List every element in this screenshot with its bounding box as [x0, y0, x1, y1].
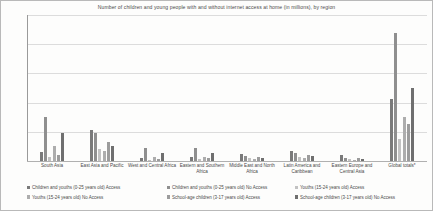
bar[interactable] — [244, 156, 247, 161]
bar[interactable] — [298, 157, 301, 161]
legend-label: Youths (15-24 years old) Access — [300, 185, 364, 190]
x-axis-tick-label: South Asia — [27, 163, 77, 169]
bar-group — [27, 15, 77, 161]
bar[interactable] — [98, 149, 101, 161]
legend-label: School-age children (3-17 years old) Acc… — [172, 195, 260, 200]
legend-row-2: Youths (15-24 years old) No AccessSchool… — [27, 195, 426, 205]
bar[interactable] — [290, 151, 293, 161]
bar[interactable] — [140, 158, 143, 161]
x-axis-tick-label: Latin America and Caribbean — [277, 163, 327, 175]
legend-swatch — [27, 186, 30, 189]
legend-row-1: Children and youths (0-25 years old) Acc… — [27, 185, 426, 195]
bar[interactable] — [411, 88, 414, 161]
bar-group — [377, 15, 427, 161]
chart-title: Number of children and young people with… — [1, 4, 432, 11]
bar[interactable] — [311, 156, 314, 161]
legend-item[interactable]: Children and youths (0-25 years old) Acc… — [27, 185, 120, 190]
bar[interactable] — [407, 124, 410, 161]
bars-container — [27, 15, 427, 161]
bar[interactable] — [240, 154, 243, 161]
legend-swatch — [27, 195, 30, 198]
bar[interactable] — [94, 133, 97, 161]
bar-group — [177, 15, 227, 161]
gridline — [27, 161, 427, 162]
x-axis-tick-label: East Asia and Pacific — [77, 163, 127, 169]
legend-label: Children and youths (0-25 years old) No … — [172, 185, 267, 190]
x-axis-tick-label: Middle East and North Africa — [227, 163, 277, 175]
legend-swatch — [167, 195, 170, 198]
bar[interactable] — [357, 158, 360, 162]
bar[interactable] — [340, 155, 343, 161]
bar-group — [327, 15, 377, 161]
legend-label: Youths (15-24 years old) No Access — [32, 195, 103, 200]
legend-item[interactable]: Children and youths (0-25 years old) No … — [167, 185, 267, 190]
bar[interactable] — [257, 157, 260, 161]
x-axis-tick-label: West and Central Africa — [127, 163, 177, 169]
bar[interactable] — [107, 142, 110, 161]
legend-swatch — [295, 195, 298, 198]
x-axis-tick-label: Eastern and Southern Africa — [177, 163, 227, 175]
chart-figure: Number of children and young people with… — [0, 0, 433, 211]
legend-item[interactable]: Youths (15-24 years old) No Access — [27, 195, 103, 200]
bar[interactable] — [294, 153, 297, 161]
bar[interactable] — [190, 157, 193, 161]
bar[interactable] — [57, 155, 60, 161]
bar[interactable] — [203, 157, 206, 161]
chart-legend: Children and youths (0-25 years old) Acc… — [27, 185, 426, 207]
bar[interactable] — [111, 146, 114, 161]
bar[interactable] — [207, 158, 210, 161]
bar[interactable] — [48, 157, 51, 161]
legend-item[interactable]: Youths (15-24 years old) Access — [295, 185, 364, 190]
bar-group — [77, 15, 127, 161]
bar[interactable] — [44, 117, 47, 161]
bar[interactable] — [144, 148, 147, 161]
bar[interactable] — [344, 158, 347, 161]
legend-swatch — [167, 186, 170, 189]
bar[interactable] — [194, 148, 197, 161]
bar[interactable] — [303, 158, 306, 161]
legend-item[interactable]: School-age children (3-17 years old) No … — [295, 195, 395, 200]
bar[interactable] — [253, 159, 256, 161]
bar[interactable] — [153, 157, 156, 161]
bar[interactable] — [148, 160, 151, 161]
plot-area: 05001000150020002500 — [27, 15, 427, 161]
bar[interactable] — [398, 139, 401, 161]
bar-group — [277, 15, 327, 161]
bar[interactable] — [403, 117, 406, 161]
bar-group — [227, 15, 277, 161]
bar[interactable] — [53, 146, 56, 161]
bar[interactable] — [348, 159, 351, 161]
bar[interactable] — [211, 153, 214, 161]
bar[interactable] — [157, 159, 160, 161]
bar[interactable] — [198, 159, 201, 161]
bar[interactable] — [394, 33, 397, 161]
x-axis-labels: South AsiaEast Asia and PacificWest and … — [27, 163, 427, 183]
bar[interactable] — [161, 153, 164, 161]
bar[interactable] — [390, 99, 393, 161]
bar[interactable] — [90, 130, 93, 161]
bar[interactable] — [61, 133, 64, 161]
bar[interactable] — [353, 160, 356, 161]
bar[interactable] — [261, 158, 264, 161]
legend-label: Children and youths (0-25 years old) Acc… — [32, 185, 120, 190]
x-axis-tick-label: Eastern Europe and Central Asia — [327, 163, 377, 175]
bar[interactable] — [40, 152, 43, 161]
bar[interactable] — [248, 158, 251, 161]
bar[interactable] — [307, 155, 310, 161]
bar[interactable] — [103, 151, 106, 161]
x-axis-tick-label: Global totals* — [377, 163, 427, 169]
legend-label: School-age children (3-17 years old) No … — [300, 195, 395, 200]
bar[interactable] — [361, 159, 364, 161]
bar-group — [127, 15, 177, 161]
legend-item[interactable]: School-age children (3-17 years old) Acc… — [167, 195, 260, 200]
legend-swatch — [295, 186, 298, 189]
